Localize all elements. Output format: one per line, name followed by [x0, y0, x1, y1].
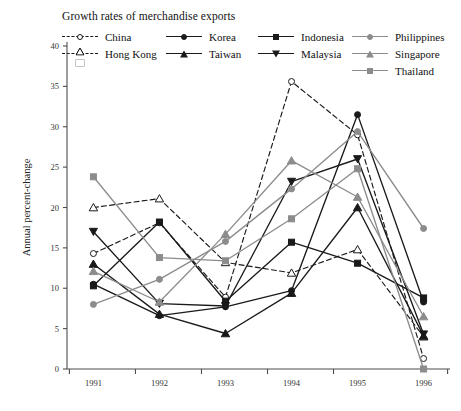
series-malaysia	[89, 156, 427, 338]
data-point	[355, 129, 361, 135]
data-point	[222, 238, 228, 244]
y-axis-label: Annual percent-change	[21, 158, 32, 256]
data-point	[421, 366, 427, 372]
x-tick-label: 1991	[85, 378, 102, 388]
series-philippines	[90, 129, 426, 308]
plot-area: 0510152025303540Annual percent-change199…	[0, 0, 461, 411]
data-point	[289, 239, 295, 245]
data-point	[288, 178, 296, 185]
y-tick-label: 0	[55, 364, 59, 374]
data-point	[222, 258, 228, 264]
y-tick-label: 25	[51, 162, 60, 172]
data-point	[89, 267, 97, 274]
x-tick-label: 1995	[349, 378, 366, 388]
chart-svg: 0510152025303540Annual percent-change199…	[0, 0, 461, 411]
data-point	[90, 301, 96, 307]
data-point	[89, 260, 97, 267]
data-point	[355, 166, 361, 172]
series-china	[90, 79, 426, 362]
data-point	[419, 313, 427, 320]
x-tick-label: 1993	[217, 378, 234, 388]
y-tick-label: 30	[51, 122, 60, 132]
y-tick-label: 20	[51, 203, 60, 213]
data-point	[353, 245, 361, 252]
data-point	[353, 204, 361, 211]
data-point	[90, 174, 96, 180]
data-point	[90, 251, 96, 257]
data-point	[289, 216, 295, 222]
axes	[67, 42, 450, 369]
y-tick-label: 40	[51, 41, 60, 51]
y-axis-ticks: 0510152025303540	[51, 41, 68, 374]
data-point	[90, 283, 96, 289]
data-point	[156, 255, 162, 261]
series-hong-kong	[89, 195, 428, 340]
x-tick-label: 1994	[283, 378, 301, 388]
data-point	[355, 260, 361, 266]
data-point	[353, 193, 361, 200]
data-point	[355, 112, 361, 118]
y-tick-label: 5	[55, 324, 59, 334]
x-tick-label: 1992	[151, 378, 168, 388]
data-point	[156, 276, 162, 282]
data-point	[289, 79, 295, 85]
y-tick-label: 15	[51, 243, 60, 253]
y-tick-label: 10	[51, 283, 60, 293]
data-point	[421, 295, 427, 301]
data-point	[354, 156, 362, 163]
data-point	[421, 225, 427, 231]
data-point	[155, 195, 163, 202]
x-tick-label: 1996	[415, 378, 432, 388]
data-point	[287, 157, 295, 164]
x-axis-ticks: 199119921993199419951996	[69, 369, 447, 388]
chart-root: Growth rates of merchandise exports Chin…	[0, 0, 461, 411]
y-tick-label: 35	[51, 81, 60, 91]
data-point	[289, 186, 295, 192]
data-point	[156, 219, 162, 225]
series-singapore	[89, 157, 428, 320]
